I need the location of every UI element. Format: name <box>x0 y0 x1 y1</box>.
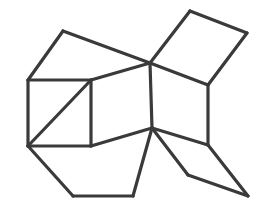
edge-group <box>28 11 248 196</box>
edge-top-right-rhombus-right <box>208 33 247 85</box>
edge-upper-left-rhombus-right <box>91 63 150 80</box>
edge-bottom-rhombus-right <box>133 128 152 196</box>
edge-upper-left-rhombus-top <box>63 31 150 63</box>
edge-bottom-left-edge <box>28 146 73 196</box>
edge-square-diagonal <box>28 80 91 146</box>
edge-center-face-right <box>150 63 152 128</box>
edge-upper-left-rhombus-left <box>28 31 63 80</box>
edge-top-right-rhombus-top <box>190 11 247 33</box>
figure-canvas <box>0 0 266 214</box>
edge-center-face-bottom <box>91 128 152 146</box>
line-drawing <box>0 0 266 214</box>
edge-top-right-rhombus-bottom <box>150 63 208 85</box>
edge-top-right-rhombus-left <box>150 11 190 63</box>
